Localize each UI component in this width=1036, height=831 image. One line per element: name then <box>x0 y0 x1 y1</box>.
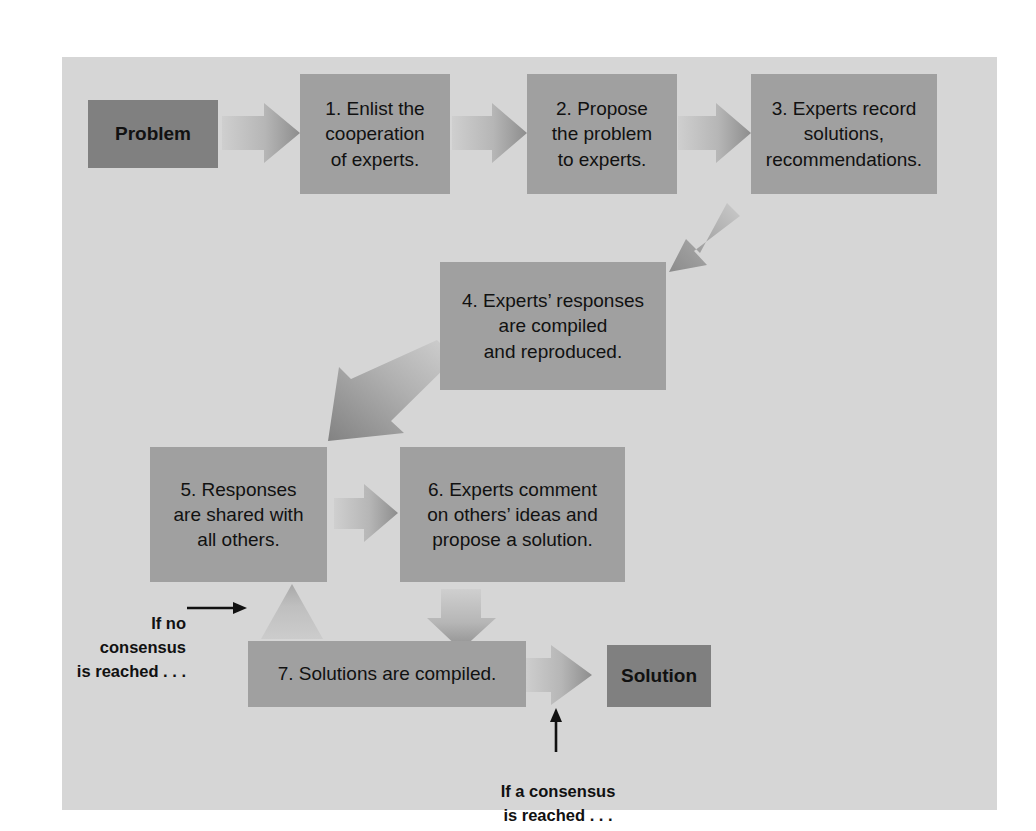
node-step3-label: 3. Experts record solutions, recommendat… <box>751 96 937 171</box>
node-problem[interactable]: Problem <box>88 100 218 168</box>
annotation-consensus-label: If a consensus is reached . . . <box>501 782 616 824</box>
node-problem-label: Problem <box>88 123 218 145</box>
node-step7-label: 7. Solutions are compiled. <box>248 663 526 685</box>
annotation-no-consensus-label: If no consensus is reached . . . <box>77 614 186 680</box>
node-step5-label: 5. Responses are shared with all others. <box>150 477 327 552</box>
annotation-consensus: If a consensus is reached . . . <box>478 756 638 828</box>
node-step4-label: 4. Experts’ responses are compiled and r… <box>440 288 666 363</box>
node-step4[interactable]: 4. Experts’ responses are compiled and r… <box>440 262 666 390</box>
node-step2[interactable]: 2. Propose the problem to experts. <box>527 74 677 194</box>
node-step6-label: 6. Experts comment on others’ ideas and … <box>400 477 625 552</box>
node-solution-label: Solution <box>607 665 711 687</box>
annotation-no-consensus: If no consensus is reached . . . <box>66 588 186 684</box>
node-solution[interactable]: Solution <box>607 645 711 707</box>
diagram-canvas: Problem 1. Enlist the cooperation of exp… <box>0 0 1036 831</box>
node-step7[interactable]: 7. Solutions are compiled. <box>248 641 526 707</box>
node-step3[interactable]: 3. Experts record solutions, recommendat… <box>751 74 937 194</box>
node-step1[interactable]: 1. Enlist the cooperation of experts. <box>300 74 450 194</box>
node-step1-label: 1. Enlist the cooperation of experts. <box>300 96 450 171</box>
node-step5[interactable]: 5. Responses are shared with all others. <box>150 447 327 582</box>
node-step6[interactable]: 6. Experts comment on others’ ideas and … <box>400 447 625 582</box>
node-step2-label: 2. Propose the problem to experts. <box>527 96 677 171</box>
